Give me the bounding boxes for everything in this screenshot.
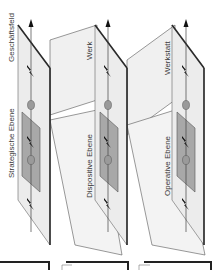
ellipse-node-icon [28,156,35,165]
arrow-up-icon [106,19,111,27]
bottom-box-inner [139,265,150,270]
ellipse-node-icon [183,156,190,165]
bottom-boxes [0,262,211,270]
ellipse-node-icon [28,101,35,110]
scope-label: Werk [85,40,94,60]
level-label: Strategische Ebene [7,108,16,178]
bottom-box-inner [62,265,72,270]
arrow-up-icon [29,19,34,27]
bottom-box [66,262,128,270]
arrow-up-icon [184,19,189,27]
connector-plane [50,25,97,115]
planning-levels-diagram: Geschäftsfeld Strategische Ebene Werk Di… [0,0,216,270]
ellipse-node-icon [105,101,112,110]
level-label: Operative Ebene [163,135,172,196]
scope-label: Werkstatt [163,41,172,75]
ellipse-node-icon [183,101,190,110]
level-label: Dispositive Ebene [85,133,94,198]
bottom-box [0,262,49,270]
bottom-box [144,262,211,270]
scope-label: Geschäftsfeld [7,13,16,62]
ellipse-node-icon [105,156,112,165]
